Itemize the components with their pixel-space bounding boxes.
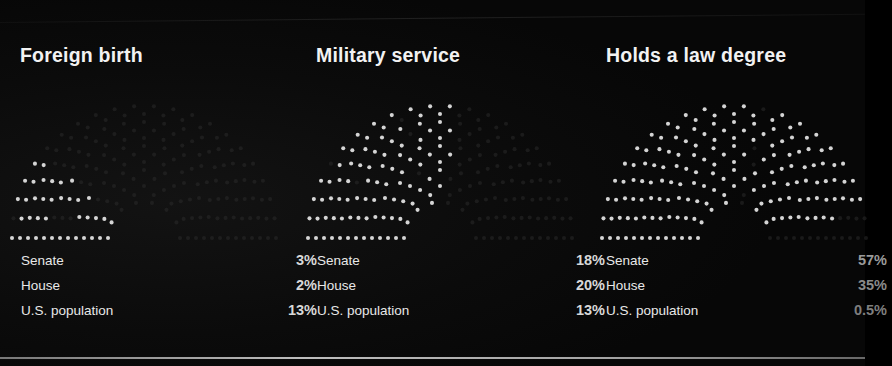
seat-dot <box>800 236 804 240</box>
seat-dot-highlighted <box>732 112 736 116</box>
seat-dot <box>197 196 201 200</box>
seat-dot-highlighted <box>666 122 670 126</box>
seat-dot <box>222 163 226 167</box>
seat-dot <box>198 153 202 157</box>
seat-dot <box>186 236 190 240</box>
seat-dot <box>458 122 462 126</box>
seat-dot-highlighted <box>367 165 371 169</box>
seat-dot <box>256 216 260 220</box>
seat-dot <box>251 162 255 166</box>
seat-dot-highlighted <box>616 236 620 240</box>
seat-dot-highlighted <box>643 161 647 165</box>
seat-dot-highlighted <box>658 197 662 201</box>
seat-dot-highlighted <box>400 144 404 148</box>
seat-dot-highlighted <box>417 146 421 150</box>
seat-dot-highlighted <box>705 202 709 206</box>
seat-dot-highlighted <box>798 122 802 126</box>
seat-dot-highlighted <box>711 171 715 175</box>
seat-dot-highlighted <box>87 196 91 200</box>
seat-dot-highlighted <box>676 125 680 129</box>
seat-dot <box>182 181 186 185</box>
row-label: U.S. population <box>21 298 288 323</box>
seat-dot-highlighted <box>712 163 716 167</box>
seat-dot-highlighted <box>652 163 656 167</box>
seat-dot-highlighted <box>26 236 30 240</box>
seat-dot-highlighted <box>320 198 324 202</box>
panel-foreign-birth: Foreign birth Senate 3% House 2% U.S. po… <box>0 0 296 366</box>
seat-dot-highlighted <box>363 147 367 151</box>
seat-dot-highlighted <box>41 178 45 182</box>
seat-dot-highlighted <box>659 136 663 140</box>
seat-dot <box>102 127 106 131</box>
seat-dot <box>854 217 858 221</box>
seat-dot <box>216 197 220 201</box>
seat-dot-highlighted <box>832 178 836 182</box>
seat-dot-highlighted <box>732 160 736 164</box>
seat-dot <box>142 184 146 188</box>
seat-dot <box>54 148 58 152</box>
seat-dot-highlighted <box>686 197 690 201</box>
seat-dot-highlighted <box>74 236 78 240</box>
seat-dot-highlighted <box>752 188 756 192</box>
seat-dot-highlighted <box>858 197 862 201</box>
seat-dot <box>530 236 534 240</box>
seat-dot-highlighted <box>428 153 432 157</box>
seat-dot <box>496 135 500 139</box>
seat-dot-highlighted <box>762 184 766 188</box>
seat-dot-highlighted <box>692 181 696 185</box>
seat-dot-highlighted <box>106 236 110 240</box>
seat-dot-highlighted <box>42 236 46 240</box>
seat-dot-highlighted <box>780 113 784 117</box>
seat-dot-highlighted <box>408 184 412 188</box>
seat-dot <box>102 153 106 157</box>
seat-dot-highlighted <box>31 180 35 184</box>
seat-dot <box>509 165 513 169</box>
seat-dot <box>768 236 772 240</box>
seat-dot-highlighted <box>672 236 676 240</box>
seat-dot-highlighted <box>337 197 341 201</box>
seat-dot <box>132 177 136 181</box>
seat-dot <box>86 125 90 129</box>
seat-dot <box>112 157 116 161</box>
seat-dot <box>122 163 126 167</box>
seat-dot-highlighted <box>380 135 384 139</box>
seat-dot <box>134 201 138 205</box>
seat-dot-highlighted <box>34 236 38 240</box>
seat-dot <box>832 236 836 240</box>
seat-dot-highlighted <box>688 236 692 240</box>
seat-dot <box>234 198 238 202</box>
hemicycle-dots-1 <box>306 104 574 240</box>
seat-dot <box>476 118 480 122</box>
seat-dot <box>225 196 229 200</box>
seat-dot <box>417 171 421 175</box>
panel-title-foreign-birth: Foreign birth <box>20 44 143 67</box>
data-row: House 2% <box>21 273 317 298</box>
seat-dot <box>268 197 272 201</box>
seat-dot <box>152 104 156 108</box>
seat-dot <box>848 236 852 240</box>
row-value: 35% <box>858 273 887 298</box>
seat-dot <box>152 128 156 132</box>
seat-dot-highlighted <box>613 179 617 183</box>
seat-dot-highlighted <box>787 196 791 200</box>
seat-dot-highlighted <box>640 179 644 183</box>
seat-dot-highlighted <box>355 196 359 200</box>
seat-dot-highlighted <box>70 179 74 183</box>
seat-dot-highlighted <box>329 196 333 200</box>
seat-dot-highlighted <box>416 208 420 212</box>
row-label: House <box>21 273 296 298</box>
seat-dot-highlighted <box>398 181 402 185</box>
seat-dot <box>53 161 57 165</box>
seat-dot <box>190 216 194 220</box>
seat-dot-highlighted <box>692 217 696 221</box>
seat-dot <box>132 153 136 157</box>
seat-dot-highlighted <box>752 122 756 126</box>
hemicycle-dots-2 <box>600 104 868 240</box>
row-value: 0.5% <box>854 298 887 323</box>
seat-dot <box>161 138 165 142</box>
seat-dot <box>484 197 488 201</box>
seat-dot-highlighted <box>759 202 763 206</box>
seat-dot-highlighted <box>650 216 654 220</box>
seat-dot <box>740 201 744 205</box>
